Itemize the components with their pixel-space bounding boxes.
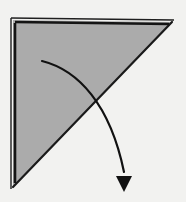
fold-diagram: Paper folding step diagram Triangular fo… [0, 0, 186, 202]
fold-diagram-canvas [0, 0, 186, 202]
